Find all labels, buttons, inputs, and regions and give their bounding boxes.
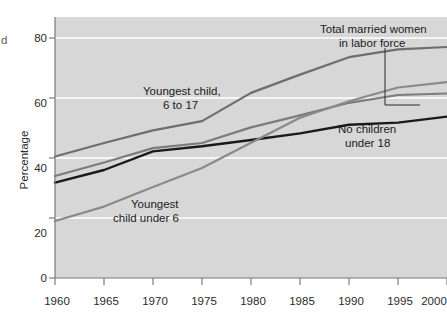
clipped-left-text: d: [1, 34, 7, 46]
x-tick-label-1990: 1990: [338, 295, 364, 307]
annotation-no-children-line2: under 18: [345, 137, 390, 149]
annotation-total-married-line2: in labor force: [339, 37, 405, 49]
x-tick-label-1980: 1980: [240, 295, 266, 307]
y-tick-label-80: 80: [34, 32, 47, 44]
annotation-youngest-6to17-line2: 6 to 17: [163, 99, 198, 111]
y-tick-label-20: 20: [34, 227, 47, 239]
annotation-youngest-under6-line2: child under 6: [113, 212, 179, 224]
y-tick-label-40: 40: [34, 162, 47, 174]
annotation-youngest-6to17-line1: Youngest child,: [143, 85, 221, 97]
x-tick-label-1975: 1975: [191, 295, 217, 307]
annotation-youngest-under6-line1: Youngest: [131, 198, 179, 210]
y-tick-label-0: 0: [41, 272, 47, 284]
y-axis-title: Percentage: [18, 131, 30, 190]
x-tick-label-1985: 1985: [289, 295, 315, 307]
x-tick-label-1960: 1960: [44, 295, 70, 307]
annotation-total-married-line1: Total married women: [320, 23, 427, 35]
chart-canvas: 80 60 40 20 0 Percentage d 1960 1965 197…: [0, 0, 447, 323]
x-tick-label-2000: 2000: [421, 295, 447, 307]
annotation-no-children-line1: No children: [338, 123, 396, 135]
x-tick-label-1970: 1970: [142, 295, 168, 307]
y-tick-label-60: 60: [34, 97, 47, 109]
x-tick-label-1965: 1965: [93, 295, 119, 307]
x-tick-label-1995: 1995: [387, 295, 413, 307]
chart-figure: 80 60 40 20 0 Percentage d 1960 1965 197…: [0, 0, 447, 323]
